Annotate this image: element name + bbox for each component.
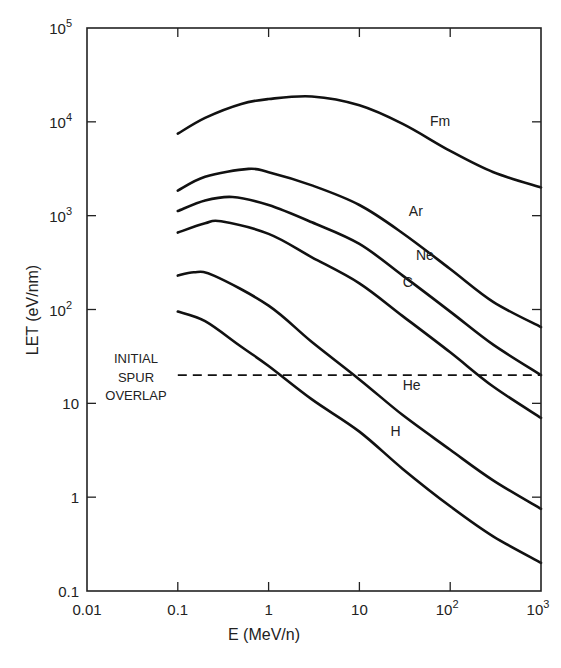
curves-group xyxy=(178,96,541,563)
plot-frame xyxy=(87,28,541,591)
y-tick-label: 0.1 xyxy=(58,583,79,600)
x-tick-label: 103 xyxy=(527,598,550,618)
curve-label-ar: Ar xyxy=(409,203,423,219)
curve-h xyxy=(178,312,541,563)
curve-label-fm: Fm xyxy=(430,113,450,129)
x-axis-title: E (MeV/n) xyxy=(228,626,300,643)
x-tick-label: 102 xyxy=(436,598,459,618)
reference-line-label: SPUR xyxy=(118,370,154,385)
axes-group xyxy=(87,28,541,591)
x-tick-label: 1 xyxy=(264,601,272,618)
x-tick-label: 10 xyxy=(351,601,368,618)
curve-label-h: H xyxy=(390,423,400,439)
y-tick-label: 10 xyxy=(62,395,79,412)
curve-label-ne: Ne xyxy=(416,247,434,263)
y-tick-label: 102 xyxy=(49,299,72,319)
reference-line-group: INITIALSPUROVERLAP xyxy=(105,351,541,403)
let-vs-energy-chart: INITIALSPUROVERLAP 0.010.11101021030.111… xyxy=(0,0,561,668)
reference-line-label: INITIAL xyxy=(114,351,158,366)
x-tick-label: 0.1 xyxy=(167,601,188,618)
y-tick-label: 1 xyxy=(71,489,79,506)
x-tick-label: 0.01 xyxy=(72,601,101,618)
y-axis-title: LET (eV/nm) xyxy=(24,265,41,355)
curve-label-c: C xyxy=(403,274,413,290)
curve-fm xyxy=(178,96,541,187)
curve-c xyxy=(178,221,541,418)
curve-label-he: He xyxy=(403,377,421,393)
reference-line-label: OVERLAP xyxy=(105,388,166,403)
y-tick-label: 104 xyxy=(49,111,72,131)
ticks-group: 0.010.11101021030.1110102103104105 xyxy=(49,17,549,618)
curve-labels-group: FmArNeCHeH xyxy=(390,113,450,439)
curve-he xyxy=(178,272,541,509)
y-tick-label: 103 xyxy=(49,205,72,225)
curve-ar xyxy=(178,169,541,327)
y-tick-label: 105 xyxy=(49,17,72,37)
